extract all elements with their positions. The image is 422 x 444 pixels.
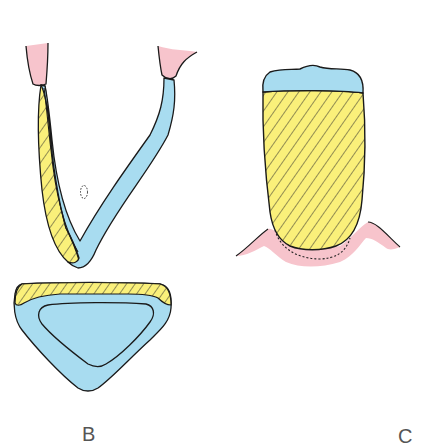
dotted-oval-marker bbox=[81, 186, 88, 199]
panel-label-c: C bbox=[398, 426, 412, 444]
panel-c-crown bbox=[236, 66, 400, 267]
panel-b-cross-section bbox=[14, 283, 171, 392]
left-pink-cap bbox=[26, 43, 48, 86]
panel-b-v-section bbox=[26, 43, 197, 268]
crown-blue-cap bbox=[263, 66, 363, 93]
panel-label-b: B bbox=[82, 424, 95, 444]
crown-hatched-body bbox=[263, 91, 365, 250]
diagram-canvas bbox=[0, 0, 422, 444]
